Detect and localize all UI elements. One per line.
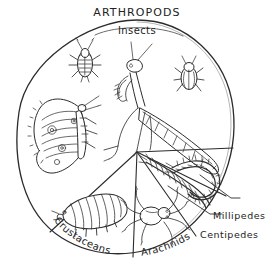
praying-mantis-illustration — [104, 42, 219, 174]
section-label-arachnids: Arachnids — [140, 230, 192, 258]
beetle-illustration — [174, 56, 204, 91]
section-label-centipedes: Centipedes — [200, 229, 259, 240]
diagram-title: ARTHROPODS — [93, 6, 180, 19]
cockroach-illustration — [69, 38, 101, 82]
woodlouse-illustration — [50, 189, 131, 243]
arthropods-diagram: ARTHROPODS Insects Crustaceans — [0, 0, 274, 271]
section-label-millipedes: Millipedes — [213, 210, 265, 221]
section-label-insects: Insects — [118, 25, 156, 36]
butterfly-illustration — [28, 96, 101, 173]
